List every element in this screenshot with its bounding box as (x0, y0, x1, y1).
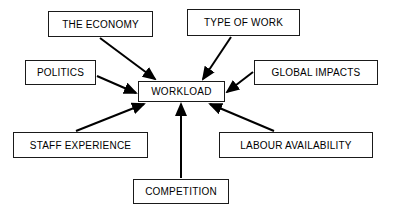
diagram-canvas: WORKLOAD THE ECONOMY TYPE OF WORK POLITI… (0, 0, 394, 216)
edge-staff-experience-workload (76, 104, 144, 131)
node-labour-availability[interactable]: LABOUR AVAILABILITY (219, 132, 373, 158)
node-competition[interactable]: COMPETITION (133, 179, 229, 204)
edge-global-impacts-workload (227, 72, 253, 92)
node-global-impacts[interactable]: GLOBAL IMPACTS (254, 60, 378, 85)
node-staff-experience[interactable]: STAFF EXPERIENCE (13, 132, 148, 158)
node-labour-availability-label: LABOUR AVAILABILITY (240, 140, 351, 151)
edge-type-of-work-workload (203, 37, 231, 79)
edge-labour-availability-workload (210, 104, 274, 131)
node-workload-label: WORKLOAD (151, 86, 212, 97)
node-type-of-work[interactable]: TYPE OF WORK (187, 9, 300, 36)
node-type-of-work-label: TYPE OF WORK (204, 17, 283, 28)
node-politics[interactable]: POLITICS (25, 60, 96, 85)
node-the-economy[interactable]: THE ECONOMY (48, 11, 153, 37)
node-workload[interactable]: WORKLOAD (138, 81, 225, 102)
node-staff-experience-label: STAFF EXPERIENCE (30, 140, 131, 151)
node-global-impacts-label: GLOBAL IMPACTS (272, 67, 361, 78)
edge-politics-workload (97, 76, 136, 93)
node-the-economy-label: THE ECONOMY (62, 19, 139, 30)
node-politics-label: POLITICS (37, 67, 84, 78)
edge-the-economy-workload (100, 38, 155, 79)
node-competition-label: COMPETITION (145, 186, 217, 197)
